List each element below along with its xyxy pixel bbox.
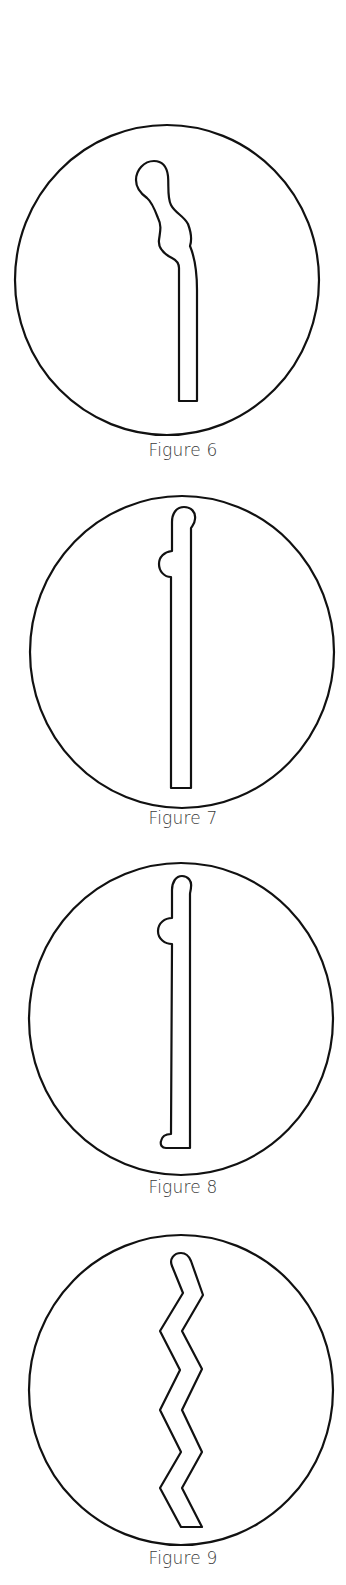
figure-8-caption: Figure 8	[0, 1177, 346, 1197]
figure-8-diagram	[29, 863, 333, 1175]
figure-8-caption-text: Figure 8	[148, 1177, 217, 1197]
figure-9-zigzag-shape	[160, 1253, 203, 1527]
figure-7-stem-shape	[159, 507, 195, 788]
figure-7-caption-text: Figure 7	[148, 808, 217, 828]
figure-6-caption: Figure 6	[0, 440, 346, 460]
figure-6-caption-text: Figure 6	[148, 440, 217, 460]
figure-7-circle	[30, 496, 334, 808]
figure-9-diagram	[29, 1235, 333, 1545]
figure-7-diagram	[30, 496, 334, 808]
figure-9-caption: Figure 9	[0, 1548, 346, 1568]
figure-7-caption: Figure 7	[0, 808, 346, 828]
figure-8-circle	[29, 863, 333, 1175]
figures-canvas	[0, 0, 346, 1585]
figure-9-caption-text: Figure 9	[148, 1548, 217, 1568]
figure-9-circle	[29, 1235, 333, 1545]
figure-6-diagram	[15, 125, 319, 435]
figure-8-stem-shape	[158, 876, 191, 1148]
figure-6-stem-shape	[136, 161, 197, 401]
